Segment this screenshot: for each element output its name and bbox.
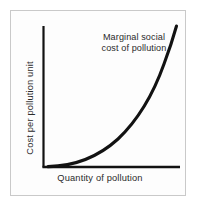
figure-root: Marginal social cost of pollution Quanti… [0, 0, 200, 208]
x-axis-label: Quantity of pollution [0, 173, 200, 183]
curve-annotation-line-2: cost of pollution [92, 43, 176, 54]
curve-annotation-line-1: Marginal social [92, 32, 176, 43]
curve-annotation: Marginal social cost of pollution [92, 32, 176, 54]
y-axis-label: Cost per pollution unit [25, 61, 35, 154]
